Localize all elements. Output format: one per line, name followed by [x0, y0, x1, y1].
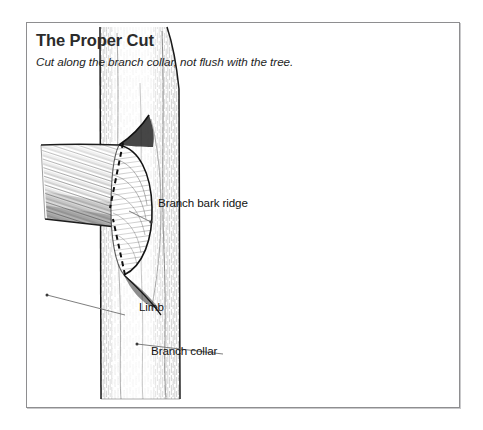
page-title: The Proper Cut [36, 31, 154, 50]
illustration-canvas [27, 23, 461, 409]
label-branch-bark-ridge: Branch bark ridge [158, 196, 248, 209]
figure-subtitle: Cut along the branch collar, not flush w… [36, 55, 293, 68]
label-limb: Limb [139, 300, 164, 313]
label-branch-collar: Branch collar [151, 344, 217, 357]
figure-frame: The Proper Cut Cut along the branch coll… [26, 22, 460, 408]
tree-branch-pruning-cut-diagram [27, 23, 461, 409]
figure-page: The Proper Cut Cut along the branch coll… [0, 0, 483, 430]
